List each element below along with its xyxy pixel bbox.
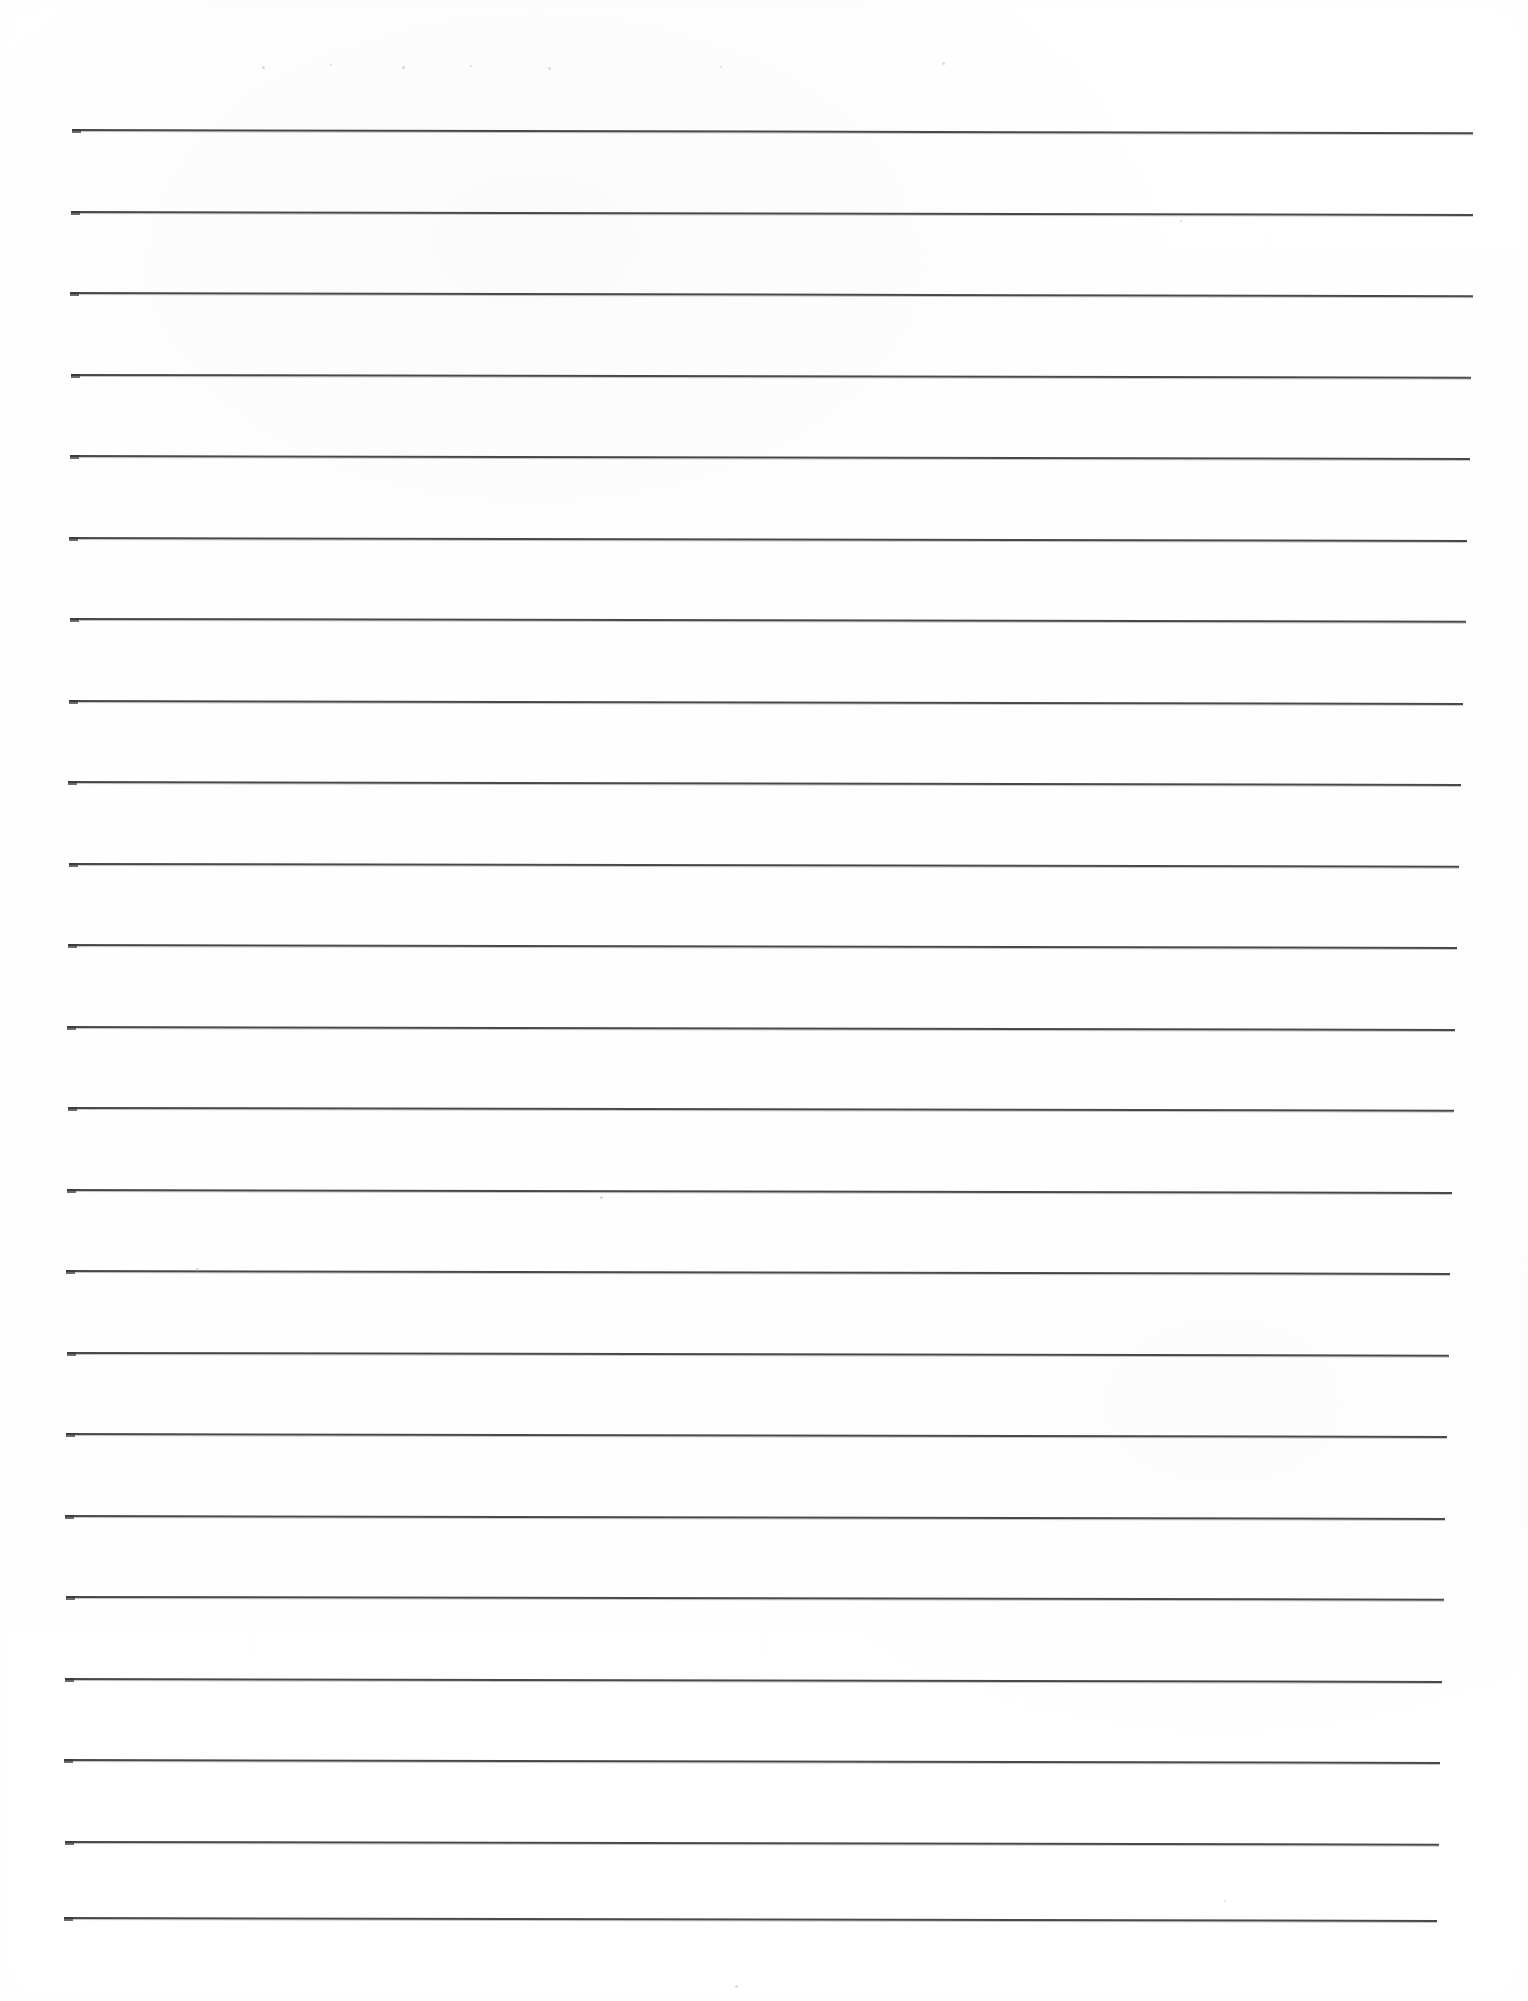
ruled-lines-layer — [0, 0, 1528, 2001]
rule-line — [68, 944, 1457, 949]
rule-line — [69, 863, 1459, 868]
rule-line — [65, 1678, 1442, 1683]
rule-line — [70, 292, 1473, 297]
rule-line — [67, 1189, 1452, 1194]
rule-line — [70, 455, 1470, 460]
rule-line — [66, 1433, 1447, 1438]
rule-line — [71, 374, 1471, 379]
rule-line — [66, 1596, 1444, 1601]
rule-line — [67, 1352, 1449, 1357]
rule-line — [68, 781, 1461, 786]
rule-line — [69, 700, 1463, 705]
rule-line — [64, 1917, 1437, 1922]
rule-line — [71, 211, 1473, 216]
rule-line — [65, 1515, 1445, 1520]
scanned-page — [0, 0, 1528, 2001]
rule-line — [66, 1270, 1450, 1275]
rule-line — [69, 537, 1467, 542]
rule-line — [67, 1026, 1455, 1031]
rule-line — [70, 618, 1466, 623]
rule-line — [68, 1107, 1454, 1112]
rule-line — [64, 1759, 1440, 1764]
rule-line — [65, 1841, 1439, 1846]
rule-line — [72, 129, 1473, 134]
